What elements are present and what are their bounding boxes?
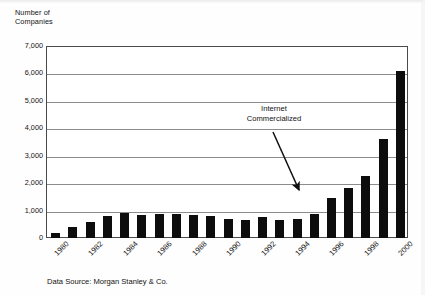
y-tick-label: 5,000 [1, 97, 43, 104]
plot-area [46, 46, 408, 238]
x-tick-label: 1992 [247, 240, 277, 270]
scan-artifact-right [421, 0, 425, 295]
source-note: Data Source: Morgan Stanley & Co. [47, 277, 168, 286]
x-tick-label: 1994 [282, 240, 312, 270]
x-tick-label: 1988 [178, 240, 208, 270]
y-tick-label: 1,000 [1, 207, 43, 214]
x-tick-label: 1996 [316, 240, 346, 270]
x-tick-label: 1986 [144, 240, 174, 270]
scan-artifact-top [0, 0, 425, 3]
x-tick-label: 1982 [75, 240, 105, 270]
annotation-arrow-icon [262, 124, 314, 202]
x-tick-label: 1980 [41, 240, 71, 270]
y-tick-label: 0 [1, 234, 43, 241]
x-tick-label: 1998 [351, 240, 381, 270]
gridline [47, 184, 407, 185]
gridline [47, 74, 407, 75]
annotation-label: Internet Commercialized [222, 104, 326, 125]
x-tick-label: 1990 [213, 240, 243, 270]
gridline [47, 157, 407, 158]
x-tick-label: 2000 [385, 240, 415, 270]
x-tick-label: 1984 [110, 240, 140, 270]
y-axis-title: Number of Companies [15, 8, 53, 26]
y-tick-label: 3,000 [1, 152, 43, 159]
gridline [47, 102, 407, 103]
gridline [47, 212, 407, 213]
x-axis-labels: 1980198219841986198819901992199419961998… [46, 238, 408, 280]
gridline [47, 129, 407, 130]
y-tick-label: 4,000 [1, 125, 43, 132]
y-tick-label: 7,000 [1, 42, 43, 49]
y-tick-label: 2,000 [1, 179, 43, 186]
y-axis-labels: 7,0006,0005,0004,0003,0002,0001,0000 [0, 46, 43, 238]
y-tick-label: 6,000 [1, 70, 43, 77]
chart-figure: Number of Companies 7,0006,0005,0004,000… [0, 0, 425, 295]
